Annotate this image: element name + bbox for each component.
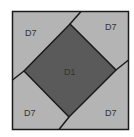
region-label-center: D1: [64, 67, 76, 77]
region-label-bottom-left: D7: [24, 108, 36, 118]
region-label-bottom-right: D7: [105, 108, 117, 118]
quilt-block-diagram: D7 D7 D7 D7 D1: [0, 0, 134, 137]
region-label-top-right: D7: [105, 22, 117, 32]
region-label-top-left: D7: [25, 28, 37, 38]
